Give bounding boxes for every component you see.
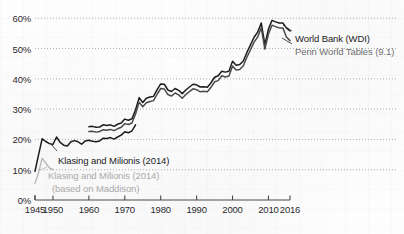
axis-lines <box>35 195 290 200</box>
x-axis-tick-label: 1990 <box>186 204 206 215</box>
series-annotation-world-bank: World Bank (WDI) <box>295 33 370 44</box>
x-axis-tick-label: 1960 <box>79 204 99 215</box>
chart-container: 0%10%20%30%40%50%60% 1945195019601970198… <box>0 0 404 234</box>
y-axis-tick-label: 10% <box>0 164 31 175</box>
y-axis-tick-label: 40% <box>0 73 31 84</box>
series-annotation-klasing-maddison-line2: (based on Maddison) <box>52 183 139 194</box>
x-axis-tick-label: 2010 <box>258 204 278 215</box>
y-axis-tick-label: 30% <box>0 104 31 115</box>
y-axis-tick-label: 20% <box>0 134 31 145</box>
annotation-leader-line <box>40 167 47 170</box>
series-annotation-klasing-maddison-line1: Klasing and Milionis (2014) <box>48 170 159 181</box>
x-axis-tick-label: 1950 <box>43 204 63 215</box>
x-axis-tick-label: 2016 <box>280 204 300 215</box>
x-axis-tick-label: 1980 <box>151 204 171 215</box>
y-axis-tick-label: 50% <box>0 43 31 54</box>
series-line <box>89 20 290 127</box>
annotation-leader-lines <box>40 25 292 170</box>
x-axis-tick-label: 2000 <box>222 204 242 215</box>
series-annotation-klasing-main: Klasing and Milionis (2014) <box>58 155 169 166</box>
x-axis-tick-label: 1970 <box>115 204 135 215</box>
series-annotation-penn-world-tables: Penn World Tables (9.1) <box>295 46 394 57</box>
y-axis-tick-label: 60% <box>0 13 31 24</box>
